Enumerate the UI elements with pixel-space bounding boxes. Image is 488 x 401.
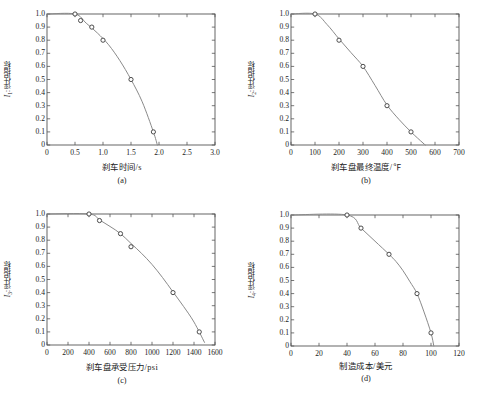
- panel-d: I4:评估指标 1.00.90.80.70.60.50.40.30.20.10 …: [244, 201, 488, 401]
- panel-c-x-axis-label: 刹车盘承受压力/psi: [0, 360, 244, 372]
- panel-b: I2:评估指标 1.00.90.80.70.60.50.40.30.20.10 …: [244, 0, 488, 200]
- panel-a-x-axis-label: 刹车时间/s: [0, 160, 244, 172]
- panel-c-caption: (c): [0, 376, 244, 385]
- figure-four-panel-evaluation-index: I1:评估指标 1.00.90.80.70.60.50.40.30.20.10 …: [0, 0, 488, 401]
- panel-d-x-axis-label: 制造成本/美元: [244, 359, 488, 371]
- panel-c: I3:评估指标 1.00.90.80.70.60.50.40.30.20.10 …: [0, 200, 244, 400]
- panel-b-x-axis-label: 刹车盘最终温度/℉: [244, 160, 488, 172]
- panel-d-plot: [244, 201, 488, 401]
- panel-a-caption: (a): [0, 176, 244, 185]
- panel-d-caption: (d): [244, 374, 488, 383]
- panel-a: I1:评估指标 1.00.90.80.70.60.50.40.30.20.10 …: [0, 0, 244, 200]
- panel-b-caption: (b): [244, 176, 488, 185]
